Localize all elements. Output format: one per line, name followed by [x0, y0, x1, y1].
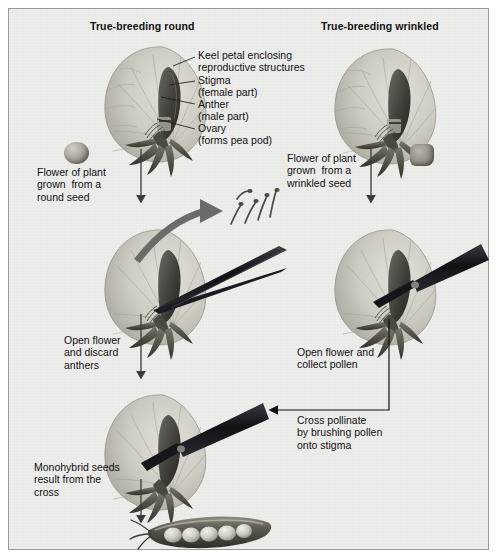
flower-top-left — [105, 47, 206, 177]
flower-mid-left-forceps — [105, 230, 287, 360]
discard-arrow — [137, 199, 223, 261]
label-keel-petal: Keel petal enclosing reproductive struct… — [198, 49, 305, 74]
discarded-anthers-icon — [231, 188, 280, 224]
caption-result: Monohybrid seeds result from the cross — [34, 461, 120, 498]
wrinkled-seed-icon — [410, 144, 434, 166]
forceps-icon — [153, 246, 287, 314]
caption-left-step2: Open flower and discard anthers — [64, 334, 121, 371]
label-stigma: Stigma (female part) — [198, 74, 258, 99]
pea-pod-icon — [130, 516, 271, 549]
flower-bottom-left-pollinated — [105, 395, 269, 525]
header-true-breeding-wrinkled: True-breeding wrinkled — [321, 20, 439, 32]
caption-left-origin: Flower of plant grown from a round seed — [37, 166, 106, 203]
flower-mid-right-brush — [335, 230, 489, 360]
pollen-brush-icon-2 — [141, 403, 269, 471]
flow-arrows — [141, 149, 371, 521]
diagram-panel: True-breeding round True-breeding wrinkl… — [8, 8, 489, 550]
figure-canvas: True-breeding round True-breeding wrinkl… — [0, 0, 497, 558]
caption-right-origin: Flower of plant grown from a wrinkled se… — [287, 152, 356, 189]
header-true-breeding-round: True-breeding round — [90, 20, 195, 32]
caption-cross-pollinate: Cross pollinate by brushing pollen onto … — [297, 414, 382, 451]
round-seed-icon — [64, 142, 89, 164]
label-anther: Anther (male part) — [198, 98, 249, 123]
label-ovary: Ovary (forms pea pod) — [198, 122, 272, 147]
caption-right-step2: Open flower and collect pollen — [297, 346, 374, 371]
label-leader-lines — [157, 57, 195, 129]
pollen-brush-icon — [373, 244, 489, 308]
